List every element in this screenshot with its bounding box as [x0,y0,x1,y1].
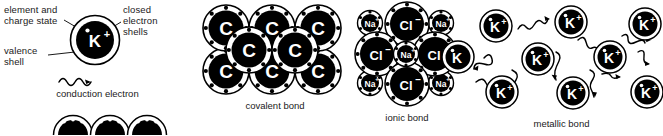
metallic-atom-charge: + [507,83,512,93]
metallic-atom-charge: + [652,83,657,93]
metallic-atom: K + [594,41,626,73]
metallic-atom-symbol: K [565,15,575,31]
ionic-cation-charge: + [446,16,450,22]
cutoff-atom [128,116,167,136]
metallic-atom-charge: + [576,13,581,23]
ionic-cation-charge: + [411,47,415,53]
metallic-bond-caption: metallic bond [460,118,663,129]
conduction-electron-label: conduction electron [0,88,195,99]
legend-graphics: K + [0,0,195,135]
metallic-atom-symbol: K [641,85,651,101]
ionic-anion-symbol: Cl [400,18,413,33]
legend-panel: element and charge state closed electron… [0,0,195,135]
metallic-atom-charge: + [578,84,583,94]
metallic-atom-symbol: K [532,52,542,68]
covalent-bond-caption: covalent bond [195,100,355,111]
ionic-anion-charge: – [415,74,421,85]
metallic-atom: K + [522,43,554,75]
metallic-atom-symbol: K [567,86,577,102]
metallic-atom-symbol: K [604,50,614,66]
covalent-atom-symbol: C [288,40,302,61]
ionic-anion-symbol: Cl [370,48,383,63]
ionic-bond-caption: ionic bond [337,112,477,123]
ionic-cation-charge: + [375,16,379,22]
metallic-atom-symbol: K [639,17,649,33]
covalent-atom-symbol: C [242,40,256,61]
ionic-cation-na: Na + [394,41,419,66]
metallic-atom: K + [557,77,589,109]
covalent-atom: C [272,27,318,73]
ionic-cation-charge: + [446,76,450,82]
cutoff-atom [54,116,93,136]
ionic-anion-cl: Cl – [385,62,429,106]
metallic-atom: K + [555,6,587,38]
metallic-atom: K + [629,8,661,40]
chemical-bonding-diagram: element and charge state closed electron… [0,0,663,135]
metallic-bond-panel: K + K + K + K + K + [460,0,663,135]
ionic-cation-symbol: Na [365,79,376,89]
cutoff-atom-row [54,116,167,136]
ionic-anion-charge: – [415,14,421,25]
cutoff-atom [91,116,130,136]
covalent-graphics: C C C C C C C C [195,0,355,135]
legend-atom-charge: + [104,28,110,40]
ionic-anion-charge: – [385,44,391,55]
ionic-cation-symbol: Na [365,19,376,29]
legend-atom-symbol: K [89,32,102,51]
metallic-graphics: K + K + K + K + K + [460,0,663,135]
metallic-atom-charge: + [501,17,506,27]
metallic-atom: K + [631,76,663,108]
free-electron-squiggle [518,19,548,29]
metallic-atom-symbol: K [490,19,500,35]
ionic-cation-charge: + [375,76,379,82]
metallic-atom-charge: + [650,15,655,25]
metallic-atom-symbol: K [452,50,462,66]
metallic-atom-charge: + [615,48,620,58]
metallic-atom-symbol: K [496,85,506,101]
covalent-atom: C [226,27,272,73]
ionic-cation-symbol: Na [436,19,447,29]
ionic-cation-symbol: Na [401,50,412,60]
metallic-atom-charge: + [543,50,548,60]
metallic-atom: K + [480,10,512,42]
ionic-bond-panel: Na + Na + Na + Na + Cl – [355,0,460,135]
covalent-bond-panel: C C C C C C C C covalent bond [195,0,355,135]
metallic-atom: K [442,41,474,73]
ionic-cation-symbol: Na [436,79,447,89]
ionic-anion-symbol: Cl [400,78,413,93]
ionic-anion-symbol: Cl [428,48,441,63]
metallic-atom: K + [486,76,518,108]
